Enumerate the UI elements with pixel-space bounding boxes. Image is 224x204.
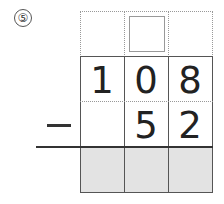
minuend-digit-ones: 8	[168, 59, 212, 103]
carry-row-cell-1	[80, 11, 125, 57]
subtrahend-digit-tens: 5	[124, 104, 168, 148]
minuend-digit-tens: 0	[124, 59, 168, 103]
answer-cell-3[interactable]	[169, 148, 212, 192]
answer-cell-2[interactable]	[125, 148, 168, 192]
answer-cell-1[interactable]	[81, 148, 124, 192]
minuend-digit-hundreds: 1	[80, 59, 124, 103]
carry-row-cell-3	[168, 11, 213, 57]
subtrahend-digit-ones: 2	[168, 104, 212, 148]
problem-number: ⑤	[14, 9, 32, 27]
borrow-input-box[interactable]	[129, 16, 165, 52]
minus-operator	[47, 124, 71, 127]
